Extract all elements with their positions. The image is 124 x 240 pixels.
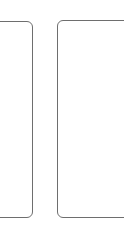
right-panel — [57, 20, 124, 218]
left-panel — [0, 21, 33, 218]
